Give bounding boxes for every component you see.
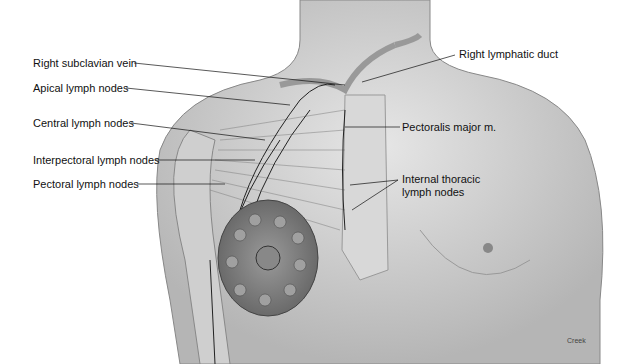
label-pectoral-lymph-nodes: Pectoral lymph nodes: [33, 178, 139, 190]
label-internal-thoracic-2: lymph nodes: [402, 186, 464, 198]
label-apical-lymph-nodes: Apical lymph nodes: [33, 82, 128, 94]
label-right-lymphatic-duct: Right lymphatic duct: [459, 48, 558, 60]
label-pectoralis-major: Pectoralis major m.: [402, 121, 496, 133]
label-central-lymph-nodes: Central lymph nodes: [33, 117, 134, 129]
label-internal-thoracic-1: Internal thoracic: [402, 173, 480, 185]
label-interpectoral-lymph-nodes: Interpectoral lymph nodes: [33, 154, 160, 166]
artist-credit: Creek: [567, 337, 586, 344]
anatomy-diagram: Right subclavian vein Apical lymph nodes…: [0, 0, 617, 364]
label-right-subclavian-vein: Right subclavian vein: [33, 57, 137, 69]
